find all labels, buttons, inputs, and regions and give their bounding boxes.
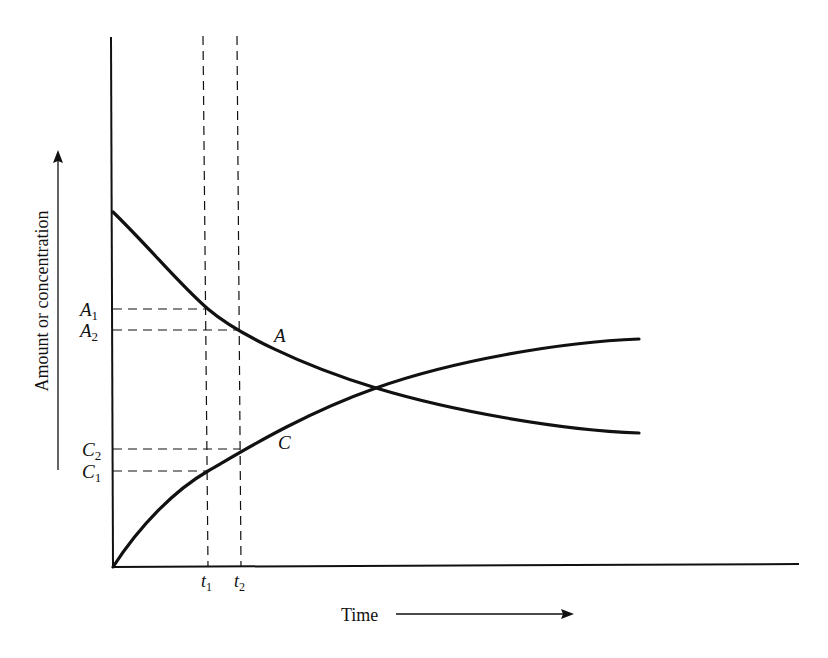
x-axis-label: Time: [341, 605, 378, 625]
curve-A: [113, 212, 639, 433]
t2-guide-line: [237, 36, 241, 567]
t1-guide-line: [203, 36, 208, 567]
A2-label: A2: [78, 320, 98, 344]
curve-A-label: A: [272, 325, 286, 346]
t1-label: t1: [201, 571, 212, 594]
t2-label: t2: [234, 571, 245, 594]
curve-C-label: C: [278, 432, 291, 453]
y-axis-label: Amount or concentration: [32, 211, 52, 392]
C1-label: C1: [82, 461, 101, 485]
x-axis: [113, 564, 799, 567]
kinetics-diagram: A C A1 A2 C2 C1 t1 t2 Time Amount or con…: [0, 0, 828, 658]
curve-C: [113, 339, 639, 567]
y-axis: [111, 37, 113, 567]
C2-label: C2: [82, 439, 101, 463]
